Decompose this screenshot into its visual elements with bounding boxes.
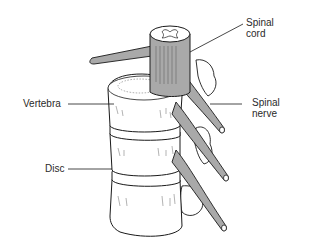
disc-label: Disc [45, 163, 64, 174]
spinal-cord-label-line2: cord [246, 28, 274, 39]
nerve-tips [220, 127, 229, 231]
spinal-cord-label-line1: Spinal [246, 17, 274, 28]
spinal-nerve-label: Spinal nerve [252, 97, 280, 119]
spinal-nerve-label-line1: Spinal [252, 97, 280, 108]
vertebral-column [108, 74, 183, 236]
left-nerve-root [90, 46, 152, 64]
spinal-cord [150, 26, 190, 97]
spinal-cord-label: Spinal cord [246, 17, 274, 39]
vertebra-label: Vertebra [23, 98, 61, 109]
spinal-cord-leader [190, 24, 243, 52]
spinal-nerve-label-line2: nerve [252, 108, 280, 119]
